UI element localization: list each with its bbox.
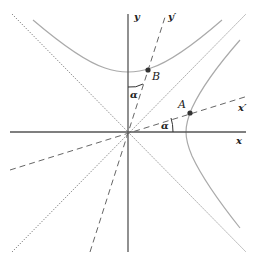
point-b [145, 67, 150, 72]
point-a [187, 110, 192, 115]
point-a-label: A [177, 98, 186, 111]
point-b-label: B [151, 70, 160, 83]
angle-arc-right [171, 118, 173, 132]
y-prime-label: y′ [167, 11, 177, 22]
y-axis-label: y [133, 11, 141, 22]
x-axis-label: x [235, 135, 243, 146]
angle-alpha-right-label: α [161, 120, 169, 131]
angle-alpha-top-label: α [130, 89, 138, 100]
x-prime-axis [10, 96, 248, 170]
hyperbola-diagram: y y′ x x′ A B α α [0, 0, 254, 258]
x-prime-label: x′ [237, 102, 247, 113]
angle-arc-top [128, 84, 143, 87]
hyperbola-right-branch [186, 40, 240, 228]
